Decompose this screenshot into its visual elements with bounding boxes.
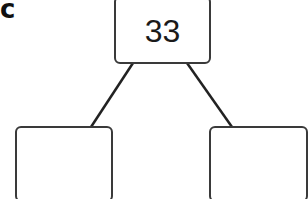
edge-left: [91, 63, 133, 127]
edge-right: [187, 63, 232, 127]
root-node: 33: [114, 0, 211, 64]
right-child-node[interactable]: [209, 126, 308, 199]
left-child-node[interactable]: [15, 126, 113, 199]
root-value: 33: [145, 11, 181, 50]
